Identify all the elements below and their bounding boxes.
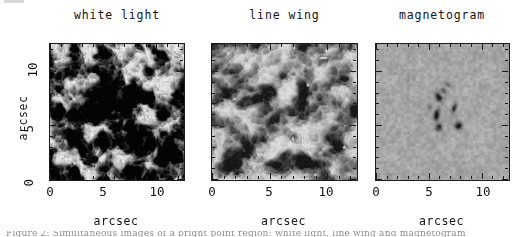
xtick-top-major [270, 44, 271, 50]
ytick-right-minor [180, 168, 183, 169]
xtick-minor [146, 176, 147, 179]
ytick-right-major [177, 179, 183, 180]
xtick-top-minor [281, 44, 282, 47]
ytick-major [50, 179, 56, 180]
xtick-top-minor [82, 44, 83, 47]
ytick-right-minor [180, 147, 183, 148]
ytick-minor [50, 157, 53, 158]
ytick-minor [212, 49, 215, 50]
panel3-x-axis-title: arcsec [375, 214, 508, 228]
xtick-top-minor [135, 44, 136, 47]
ytick-right-minor [505, 147, 508, 148]
xtick-top-minor [146, 44, 147, 47]
panel1-xtick-label-0: 0 [40, 184, 60, 199]
xtick-minor [460, 176, 461, 179]
xtick-top-minor [492, 44, 493, 47]
ytick-right-minor [180, 93, 183, 94]
xtick-top-minor [124, 44, 125, 47]
panel3-xtick-label-5: 5 [419, 184, 439, 199]
xtick-top-minor [304, 44, 305, 47]
ytick-right-minor [353, 103, 356, 104]
panel2-x-axis-title: arcsec [211, 214, 356, 228]
xtick-top-minor [178, 44, 179, 47]
ytick-major [376, 71, 382, 72]
ytick-right-minor [180, 82, 183, 83]
ytick-minor [376, 147, 379, 148]
xtick-top-minor [61, 44, 62, 47]
y-axis-title: arcsec [16, 83, 30, 153]
panel2-xtick-label-0: 0 [202, 184, 222, 199]
xtick-minor [339, 176, 340, 179]
panel-title-line-wing: line wing [212, 8, 357, 22]
xtick-minor [258, 176, 259, 179]
panel3-xtick-label-0: 0 [366, 184, 386, 199]
ytick-right-minor [353, 60, 356, 61]
xtick-top-minor [247, 44, 248, 47]
xtick-minor [316, 176, 317, 179]
ytick-label-10: 10 [25, 58, 40, 78]
ytick-minor [50, 103, 53, 104]
xtick-top-major [103, 44, 104, 50]
xtick-minor [450, 176, 451, 179]
ytick-major [212, 125, 218, 126]
xtick-top-minor [71, 44, 72, 47]
ytick-right-minor [505, 82, 508, 83]
ytick-right-minor [353, 114, 356, 115]
ytick-right-minor [505, 136, 508, 137]
ytick-minor [212, 147, 215, 148]
ytick-right-minor [353, 49, 356, 50]
ytick-major [212, 179, 218, 180]
xtick-minor [293, 176, 294, 179]
ytick-right-major [350, 125, 356, 126]
xtick-minor [397, 176, 398, 179]
panel2-xtick-label-5: 5 [259, 184, 279, 199]
ytick-right-major [502, 179, 508, 180]
xtick-minor [503, 176, 504, 179]
ytick-minor [212, 136, 215, 137]
ytick-minor [50, 147, 53, 148]
xtick-minor [124, 176, 125, 179]
xtick-top-major [327, 44, 328, 50]
ytick-minor [212, 103, 215, 104]
caption-text: Figure 2: Simultaneous images of a brigh… [6, 231, 525, 237]
ytick-major [376, 179, 382, 180]
ytick-minor [376, 82, 379, 83]
xtick-major [270, 173, 271, 179]
xtick-minor [471, 176, 472, 179]
ytick-right-minor [180, 157, 183, 158]
panel-title-white-light: white light [50, 8, 184, 22]
ytick-right-minor [353, 157, 356, 158]
ytick-right-minor [505, 93, 508, 94]
ytick-minor [376, 157, 379, 158]
ytick-minor [376, 49, 379, 50]
xtick-top-minor [93, 44, 94, 47]
xtick-minor [281, 176, 282, 179]
ytick-right-major [177, 125, 183, 126]
xtick-minor [439, 176, 440, 179]
xtick-top-major [482, 44, 483, 50]
clipped-text-artifact-top [4, 0, 24, 3]
ytick-right-minor [505, 60, 508, 61]
xtick-minor [135, 176, 136, 179]
panel1-x-axis-title: arcsec [49, 214, 183, 228]
ytick-minor [50, 93, 53, 94]
xtick-minor [224, 176, 225, 179]
xtick-major [482, 173, 483, 179]
ytick-label-0: 0 [21, 167, 36, 187]
ytick-right-minor [180, 103, 183, 104]
xtick-top-minor [114, 44, 115, 47]
xtick-top-minor [450, 44, 451, 47]
xtick-top-minor [316, 44, 317, 47]
xtick-minor [114, 176, 115, 179]
ytick-right-major [177, 71, 183, 72]
xtick-major [103, 173, 104, 179]
xtick-top-minor [258, 44, 259, 47]
panel2-xtick-label-10: 10 [313, 184, 339, 199]
xtick-minor [71, 176, 72, 179]
ytick-right-minor [353, 136, 356, 137]
panel-image-white-light [49, 43, 185, 181]
ytick-minor [212, 114, 215, 115]
xtick-top-minor [350, 44, 351, 47]
panel-image-magnetogram [375, 43, 510, 181]
ytick-minor [376, 60, 379, 61]
